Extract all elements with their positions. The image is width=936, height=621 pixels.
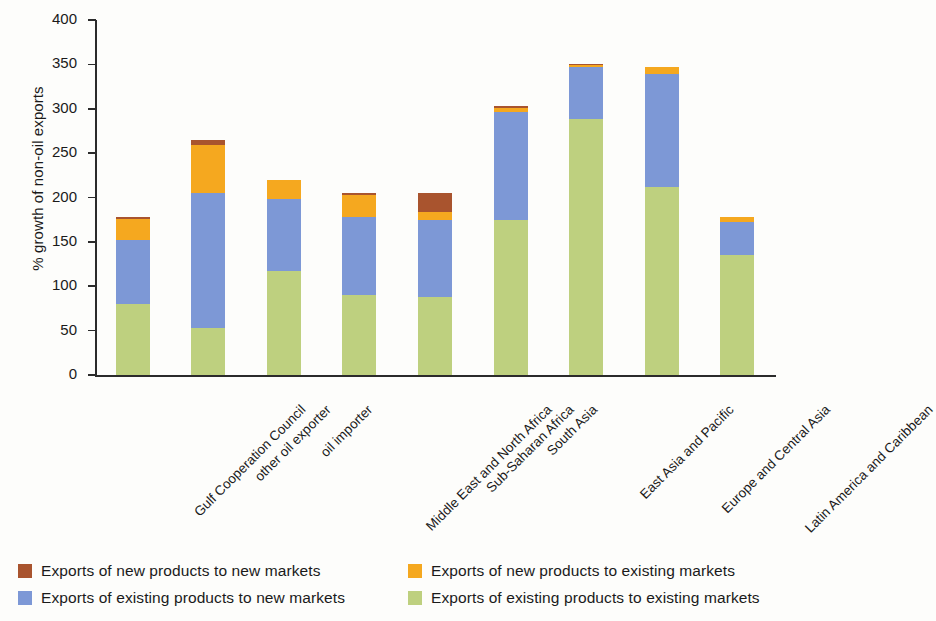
legend-swatch-icon <box>408 564 422 578</box>
bar-segment <box>191 328 225 375</box>
y-axis-title: % growth of non-oil exports <box>29 54 46 304</box>
y-tick <box>88 285 96 287</box>
bar-segment <box>191 193 225 328</box>
bar-segment <box>494 220 528 375</box>
legend-label: Exports of existing products to existing… <box>431 589 760 607</box>
x-tick-label: Europe and Central Asia <box>719 402 833 516</box>
y-tick-label: 300 <box>17 99 77 116</box>
legend-item[interactable]: Exports of existing products to existing… <box>408 589 798 607</box>
bar-segment <box>720 222 754 255</box>
legend-label: Exports of new products to existing mark… <box>431 562 735 580</box>
legend-label: Exports of new products to new markets <box>41 562 320 580</box>
legend-item[interactable]: Exports of new products to new markets <box>18 562 408 580</box>
bar-segment <box>267 180 301 200</box>
bar-segment <box>267 199 301 271</box>
y-tick <box>88 152 96 154</box>
bar-segment <box>569 119 603 375</box>
x-tick-label: Middle East and North Africa <box>424 402 556 534</box>
bar-5[interactable] <box>418 193 452 375</box>
y-tick-label: 50 <box>17 321 77 338</box>
y-tick-label: 0 <box>17 365 77 382</box>
y-tick <box>88 241 96 243</box>
legend-label: Exports of existing products to new mark… <box>41 589 345 607</box>
bar-6[interactable] <box>494 106 528 375</box>
y-tick <box>88 19 96 21</box>
x-axis-line <box>95 375 776 377</box>
legend-swatch-icon <box>18 564 32 578</box>
bar-2[interactable] <box>191 140 225 375</box>
bar-segment <box>342 195 376 217</box>
bar-segment <box>116 240 150 304</box>
legend-item[interactable]: Exports of existing products to new mark… <box>18 589 408 607</box>
bar-segment <box>116 304 150 375</box>
y-tick <box>88 374 96 376</box>
y-tick <box>88 330 96 332</box>
y-tick-label: 250 <box>17 143 77 160</box>
bar-segment <box>342 295 376 375</box>
bar-segment <box>191 145 225 193</box>
x-tick-label: Gulf Cooperation Council <box>191 402 308 519</box>
bar-segment <box>116 219 150 240</box>
bar-segment <box>720 255 754 375</box>
plot-area: 050100150200250300350400 Gulf Cooperatio… <box>95 20 775 375</box>
bar-segment <box>494 112 528 219</box>
y-tick-label: 100 <box>17 276 77 293</box>
bar-7[interactable] <box>569 64 603 375</box>
y-tick <box>88 64 96 66</box>
bar-segment <box>418 220 452 297</box>
y-tick <box>88 108 96 110</box>
bar-segment <box>418 193 452 212</box>
y-tick-label: 350 <box>17 54 77 71</box>
bar-3[interactable] <box>267 180 301 375</box>
y-tick-label: 400 <box>17 10 77 27</box>
bar-segment <box>267 271 301 375</box>
bar-1[interactable] <box>116 217 150 375</box>
legend-swatch-icon <box>18 591 32 605</box>
bar-4[interactable] <box>342 193 376 375</box>
bar-8[interactable] <box>645 67 679 375</box>
bar-segment <box>418 212 452 220</box>
x-tick-label: East Asia and Pacific <box>637 402 737 502</box>
legend: Exports of new products to new marketsEx… <box>18 562 778 607</box>
bar-segment <box>342 217 376 295</box>
y-tick-label: 150 <box>17 232 77 249</box>
y-tick <box>88 197 96 199</box>
legend-swatch-icon <box>408 591 422 605</box>
bar-segment <box>645 74 679 187</box>
y-tick-label: 200 <box>17 188 77 205</box>
bar-segment <box>418 297 452 375</box>
bar-segment <box>569 67 603 119</box>
bar-9[interactable] <box>720 217 754 375</box>
bar-segment <box>645 67 679 74</box>
bar-segment <box>645 187 679 375</box>
legend-item[interactable]: Exports of new products to existing mark… <box>408 562 798 580</box>
